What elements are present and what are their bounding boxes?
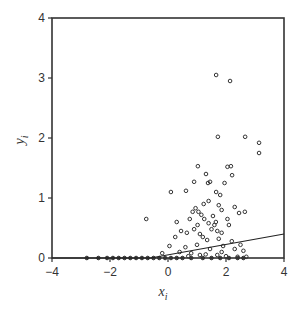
data-point <box>160 251 164 255</box>
data-point <box>202 202 206 206</box>
plot-frame <box>52 18 284 258</box>
data-point <box>216 135 220 139</box>
data-point <box>201 256 205 260</box>
data-point <box>237 211 241 215</box>
data-point <box>168 244 172 248</box>
data-point <box>175 220 179 224</box>
data-point <box>217 203 221 207</box>
data-point <box>242 249 246 253</box>
data-point <box>198 232 202 236</box>
data-point <box>144 217 148 221</box>
scatter-chart: 01234 −4−2024 xi yi <box>0 0 301 311</box>
data-point <box>169 190 173 194</box>
data-point <box>236 256 240 260</box>
data-point <box>184 245 188 249</box>
data-point <box>233 205 237 209</box>
data-point <box>188 217 192 221</box>
data-point <box>242 256 246 260</box>
data-point <box>239 243 243 247</box>
data-point <box>218 256 222 260</box>
data-point <box>214 73 218 77</box>
y-axis-label: yi <box>12 135 30 146</box>
data-point <box>204 172 208 176</box>
x-tick-label: 0 <box>165 265 172 279</box>
data-point <box>220 231 224 235</box>
data-point <box>192 180 196 184</box>
data-point <box>204 253 208 257</box>
data-point <box>220 208 224 212</box>
data-point <box>163 256 167 260</box>
data-point <box>195 243 199 247</box>
data-point <box>243 210 247 214</box>
x-tick-label: 4 <box>281 265 288 279</box>
data-point <box>205 238 209 242</box>
data-point <box>210 256 214 260</box>
x-tick-label: −4 <box>45 265 59 279</box>
data-point <box>217 237 221 241</box>
y-axis-ticks: 01234 <box>38 11 52 265</box>
data-point <box>196 164 200 168</box>
data-point <box>185 231 189 235</box>
data-point <box>192 227 196 231</box>
y-tick-label: 0 <box>38 251 45 265</box>
data-point <box>197 210 201 214</box>
data-point <box>189 256 193 260</box>
y-tick-label: 2 <box>38 131 45 145</box>
data-point <box>198 253 202 257</box>
data-point <box>227 223 231 227</box>
data-point <box>189 251 193 255</box>
data-point <box>184 189 188 193</box>
y-tick-label: 3 <box>38 71 45 85</box>
data-point <box>191 210 195 214</box>
data-point <box>257 141 261 145</box>
data-point <box>223 181 227 185</box>
data-point <box>230 173 234 177</box>
data-point <box>214 190 218 194</box>
data-point <box>194 206 198 210</box>
scatter-points <box>85 73 261 260</box>
data-point <box>230 239 234 243</box>
y-tick-label: 1 <box>38 191 45 205</box>
data-point <box>169 256 173 260</box>
data-point <box>257 151 261 155</box>
data-point <box>202 217 206 221</box>
data-point <box>207 221 211 225</box>
data-point <box>220 250 224 254</box>
data-point <box>228 79 232 83</box>
data-point <box>216 229 220 233</box>
data-point <box>179 229 183 233</box>
data-point <box>227 256 231 260</box>
data-point <box>200 213 204 217</box>
data-point <box>226 217 230 221</box>
data-point <box>210 227 214 231</box>
x-axis-ticks: −4−2024 <box>45 258 288 279</box>
data-point <box>207 199 211 203</box>
data-point <box>233 247 237 251</box>
data-point <box>196 223 200 227</box>
data-point <box>243 135 247 139</box>
y-tick-label: 4 <box>38 11 45 25</box>
data-point <box>181 256 185 260</box>
x-axis-label: xi <box>158 284 168 302</box>
data-point <box>175 256 179 260</box>
data-point <box>218 193 222 197</box>
data-point <box>173 235 177 239</box>
x-tick-label: 2 <box>223 265 230 279</box>
data-point <box>211 214 215 218</box>
data-point <box>201 235 205 239</box>
data-point <box>216 253 220 257</box>
x-tick-label: −2 <box>103 265 117 279</box>
